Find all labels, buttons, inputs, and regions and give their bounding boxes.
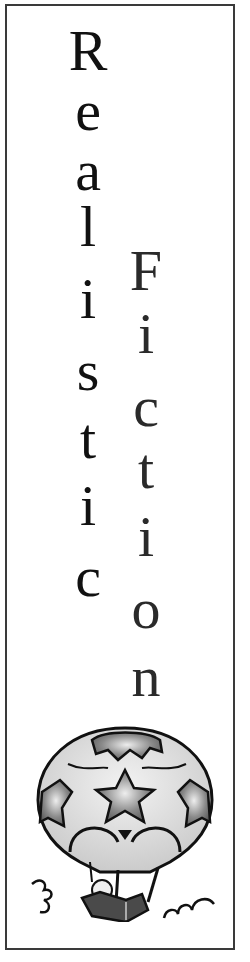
title-letter: e (58, 82, 118, 140)
title-letter: c (58, 548, 118, 606)
title-letter: R (58, 22, 118, 80)
title-letter: n (116, 648, 176, 706)
title-letter: l (58, 198, 118, 256)
title-letter: i (58, 270, 118, 328)
hot-air-balloon-icon (30, 722, 220, 922)
title-letter: t (116, 440, 176, 498)
title-letter: s (58, 342, 118, 400)
title-letter: a (58, 142, 118, 200)
title-letter: i (58, 477, 118, 535)
title-letter: t (58, 410, 118, 468)
title-letter: F (116, 242, 176, 300)
title-letter: c (116, 378, 176, 436)
title-letter: i (116, 305, 176, 363)
title-letter: o (116, 580, 176, 638)
title-letter: i (116, 508, 176, 566)
